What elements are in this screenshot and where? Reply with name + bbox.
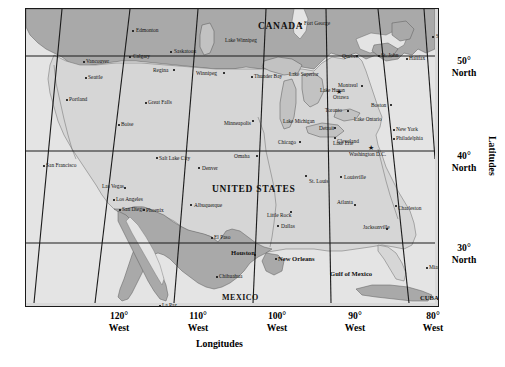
city-marker-winnipeg <box>223 72 225 74</box>
city-label-jacksonville: Jacksonville <box>363 225 390 230</box>
city-marker-la-paz <box>159 305 161 307</box>
city-marker-saskatoon <box>170 51 172 53</box>
city-marker-vancouver <box>83 61 85 63</box>
tick-value: 30° <box>457 242 470 253</box>
city-label-dallas: Dallas <box>281 224 295 229</box>
city-marker-omaha <box>256 155 258 157</box>
tick-hemisphere: North <box>452 162 477 173</box>
city-marker-el-paso <box>211 237 213 239</box>
longitude-axis-title: Longitudes <box>196 338 243 349</box>
city-label-minneapolis: Minneapolis <box>224 121 251 126</box>
city-marker-atlanta <box>354 204 356 206</box>
city-label-albuquerque: Albuquerque <box>194 203 222 208</box>
city-marker-montreal <box>361 85 363 87</box>
city-marker-salt-lake-city <box>156 157 158 159</box>
city-label-detroit: Detroit <box>319 126 334 131</box>
city-label-charleston: Charleston <box>398 206 421 211</box>
city-label-las-vegas: Las Vegas <box>102 184 124 189</box>
city-label-quebec: Quebec <box>342 54 358 59</box>
city-marker-regina <box>173 69 175 71</box>
city-label-st-john: St. John <box>381 53 398 58</box>
city-label-new-york: New York <box>396 127 418 132</box>
tick-hemisphere: West <box>109 322 129 333</box>
city-marker-chihuahua <box>216 276 218 278</box>
city-label-chicago: Chicago <box>278 140 296 145</box>
city-label-sydney: Sydney <box>436 34 439 39</box>
city-marker-san-diego <box>119 209 121 211</box>
city-label-edmonton: Edmonton <box>136 28 158 33</box>
city-label-phoenix: Phoenix <box>146 208 164 213</box>
country-label-united-states: UNITED STATES <box>212 185 295 195</box>
city-label-calgary: Calgary <box>133 54 150 59</box>
city-label-little-rock: Little Rock <box>267 213 291 218</box>
city-marker-sydney <box>432 36 434 38</box>
city-label-miami: Miami <box>429 265 439 270</box>
city-marker-philadelphia <box>393 138 395 140</box>
tick-hemisphere: West <box>345 322 365 333</box>
country-label-mexico: MEXICO <box>222 294 259 302</box>
city-label-salt-lake-city: Salt Lake City <box>159 156 190 161</box>
capital-label-ottawa: Ottawa <box>333 95 349 100</box>
tick-value: 50° <box>457 55 470 66</box>
tick-hemisphere: West <box>267 322 287 333</box>
city-label-new-orleans: New Orleans <box>278 256 314 263</box>
country-label-canada: CANADA <box>258 22 303 32</box>
city-marker-dallas <box>277 225 279 227</box>
tick-value: 100° <box>268 310 286 321</box>
water-label-lake-ontario: Lake Ontario <box>354 117 382 122</box>
tick-value: 110° <box>189 310 207 321</box>
city-label-saskatoon: Saskatoon <box>174 49 196 54</box>
city-marker-cleveland <box>334 137 336 139</box>
city-label-louisville: Louisville <box>344 175 366 180</box>
tick-value: 120° <box>110 310 128 321</box>
city-label-halifax: Halifax <box>409 56 425 61</box>
longitude-tick-80-west: 80°West <box>403 310 463 333</box>
city-marker-denver <box>198 167 200 169</box>
city-label-great-falls: Great Falls <box>148 100 172 105</box>
longitude-tick-110-west: 110°West <box>168 310 228 333</box>
city-marker-new-orleans <box>275 258 277 260</box>
water-label-gulf-of-mexico: Gulf of Mexico <box>330 271 372 278</box>
tick-hemisphere: West <box>188 322 208 333</box>
city-label-san-diego: San Diego <box>122 207 145 212</box>
city-label-houston: Houston <box>231 250 255 257</box>
tick-hemisphere: North <box>452 67 477 78</box>
map-figure: CANADAUNITED STATESMEXICOCUBAGulf of Mex… <box>0 0 505 367</box>
tick-hemisphere: West <box>423 322 443 333</box>
city-marker-albuquerque <box>190 204 192 206</box>
city-marker-toronto <box>347 110 349 112</box>
city-marker-charleston <box>395 205 397 207</box>
city-marker-boise <box>118 124 120 126</box>
latitude-axis-title: Latitudes <box>487 136 498 176</box>
water-label-lake-winnipeg: Lake Winnipeg <box>225 38 257 43</box>
latitude-tick-40-north: 40°North <box>443 150 485 173</box>
city-marker-great-falls <box>145 102 147 104</box>
city-label-los-angeles: Los Angeles <box>116 197 143 202</box>
city-marker-seattle <box>85 77 87 79</box>
water-label-lake-superior: Lake Superior <box>289 72 319 77</box>
water-label-lake-michigan: Lake Michigan <box>283 119 315 124</box>
city-marker-calgary <box>129 56 131 58</box>
city-label-regina: Regina <box>153 68 168 73</box>
city-label-seattle: Seattle <box>88 75 103 80</box>
city-marker-new-york <box>393 129 395 131</box>
city-label-la-paz: La Paz <box>162 303 177 307</box>
longitude-tick-90-west: 90°West <box>325 310 385 333</box>
longitude-tick-120-west: 120°West <box>89 310 149 333</box>
city-label-el-paso: El Paso <box>214 235 230 240</box>
tick-value: 80° <box>426 310 439 321</box>
city-label-vancouver: Vancouver <box>86 59 109 64</box>
tick-hemisphere: North <box>452 254 477 265</box>
city-marker-fort-george <box>300 23 302 25</box>
city-label-philadelphia: Philadelphia <box>396 136 423 141</box>
city-marker-thunder-bay <box>251 76 253 78</box>
city-marker-chicago <box>299 141 301 143</box>
city-marker-st-john <box>378 55 380 57</box>
city-marker-phoenix <box>143 209 145 211</box>
city-marker-louisville <box>340 176 342 178</box>
city-marker-edmonton <box>132 30 134 32</box>
city-label-st-louis: St. Louis <box>309 179 328 184</box>
tick-value: 90° <box>348 310 361 321</box>
city-label-winnipeg: Winnipeg <box>196 71 217 76</box>
city-label-san-francisco: San Francisco <box>46 163 76 168</box>
